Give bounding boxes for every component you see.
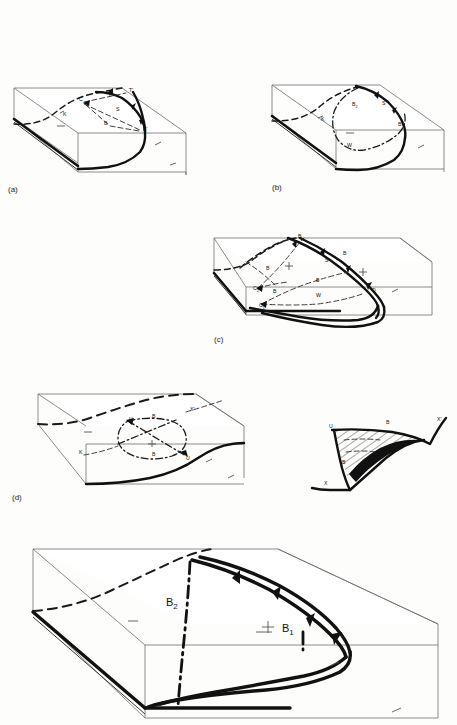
panel-a-label-S: S <box>116 106 120 112</box>
panel-a-label-T-prime: T' <box>129 87 133 93</box>
panel-c-slab-edge <box>214 273 246 311</box>
panel-c-bold-front-2 <box>250 306 378 321</box>
panel-a-caption: (a) <box>8 185 18 194</box>
panel-a-label-K: K <box>63 111 67 117</box>
panel-d-top-face <box>38 394 244 426</box>
panel-c-label-B-3: B <box>266 265 270 271</box>
panel-e-slab-under-edge <box>33 617 145 714</box>
panel-c-caption: (c) <box>214 335 224 344</box>
panel-c-label-B-1: B <box>298 233 302 239</box>
panel-e: B2 B1 <box>33 549 438 718</box>
panel-c-label-C2: C2 <box>253 285 259 293</box>
panel-a-label-C: C <box>79 96 83 102</box>
panel-c-dip-tick-2 <box>359 268 367 276</box>
panel-c-label-D: D <box>372 287 376 293</box>
panel-c: B B S B B C2 B C1 W D (c) <box>214 233 432 344</box>
inset-label-U: U <box>329 423 333 429</box>
inset-bold-base <box>312 488 350 490</box>
panel-c-label-S: S <box>325 257 329 263</box>
panel-a-label-B: B <box>104 120 108 126</box>
panel-c-dip-tick-3 <box>392 289 398 292</box>
panel-d-dip-tick-2 <box>148 440 156 447</box>
panel-d-caption: (d) <box>12 493 22 502</box>
panel-d-dip-tick-3 <box>206 459 212 462</box>
inset-label-X: X <box>324 480 328 486</box>
panel-d-label-U-lower: U <box>186 455 190 461</box>
panel-c-label-W: W <box>316 292 321 298</box>
panel-c-axis-c1-b <box>262 294 362 305</box>
panel-d-inset: U B X' B X <box>312 416 446 490</box>
panel-c-label-B-4: B <box>316 277 320 283</box>
panel-a-dip-tick-4 <box>170 163 176 165</box>
panel-a-bold-thrust-front <box>78 132 145 169</box>
figure-canvas: C T T' S B B' K (a) <box>0 0 457 725</box>
panel-c-slab-under-edge <box>214 276 246 314</box>
panel-e-label-B1: B1 <box>282 622 294 637</box>
panel-d-label-B-upper: B <box>152 413 156 419</box>
panel-d-dip-tick-4 <box>228 475 234 478</box>
panel-c-dip-tick-1 <box>285 262 293 270</box>
panel-d-dashdot-diag-1 <box>128 421 186 456</box>
panel-b-label-W: W <box>347 142 352 148</box>
panel-e-top-face <box>33 549 438 624</box>
panel-b-caption: (b) <box>272 183 282 192</box>
panel-c-axis-upper <box>246 262 276 286</box>
panel-a: C T T' S B B' K (a) <box>8 87 186 194</box>
panel-b-slab-under-edge <box>272 119 336 167</box>
panel-b-top-face <box>272 85 444 130</box>
panel-c-label-B-5: B <box>273 288 277 294</box>
panel-d-label-K: K <box>79 449 83 455</box>
panel-a-top-face <box>14 88 186 133</box>
panel-d-axis-x <box>84 446 118 455</box>
inset-label-B-left: B <box>342 459 346 465</box>
panel-a-slab-under-edge <box>14 122 78 170</box>
panel-d-label-X-prime: X' <box>190 406 194 412</box>
inset-label-B-top: B <box>386 419 390 425</box>
panel-e-slab-edge <box>33 612 145 708</box>
panel-e-dip-tick-5 <box>392 708 401 712</box>
panel-d: U B X' K B U (d) <box>12 394 244 502</box>
panel-a-label-B-prime: B' <box>143 126 147 132</box>
panel-b-label-K: K <box>321 116 325 122</box>
panel-b-dip-tick-3 <box>418 145 424 148</box>
inset-label-X-prime: X' <box>437 416 441 422</box>
panel-c-label-B-2: B <box>343 250 347 256</box>
panel-b-label-S: S <box>382 100 386 106</box>
panel-b: B2 S B1 K W (b) <box>272 85 444 192</box>
panel-d-label-U-upper: U <box>129 416 133 422</box>
panel-a-dip-tick-3 <box>155 142 161 145</box>
structural-geology-figure: C T T' S B B' K (a) <box>0 0 457 725</box>
panel-d-label-B-lower: B <box>152 451 156 457</box>
